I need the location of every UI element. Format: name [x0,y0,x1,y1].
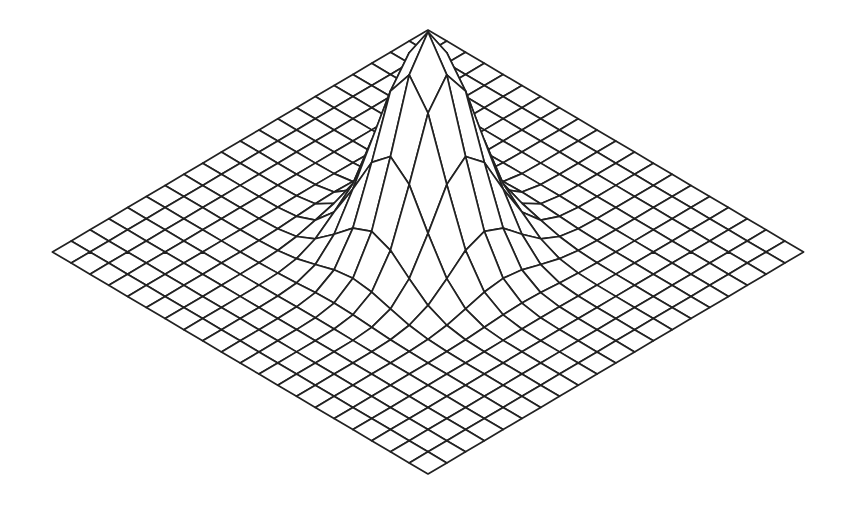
surface-plot [0,0,850,510]
wireframe-surface [0,0,850,510]
